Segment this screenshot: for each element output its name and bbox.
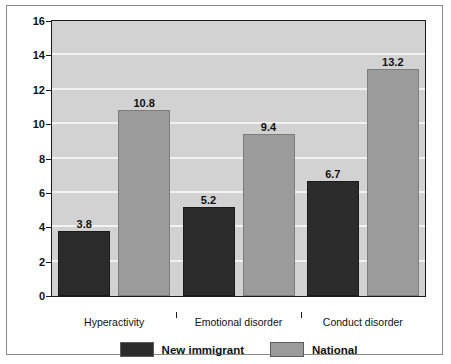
chart-legend: New immigrantNational xyxy=(51,342,426,357)
legend-item: National xyxy=(270,342,357,357)
bar-new-immigrant: 3.8 xyxy=(58,231,110,296)
y-axis-tick-label: 2 xyxy=(19,256,45,268)
gridline xyxy=(52,53,425,55)
y-axis-tick-mark xyxy=(46,90,51,91)
bar-national: 13.2 xyxy=(367,69,419,296)
legend-swatch-new-immigrant xyxy=(120,342,154,357)
bar-national: 10.8 xyxy=(118,110,170,296)
y-axis-tick-mark xyxy=(46,21,51,22)
bar-value-label: 13.2 xyxy=(382,56,403,68)
y-axis-tick-label: 6 xyxy=(19,187,45,199)
legend-swatch-national xyxy=(270,342,304,357)
legend-label: National xyxy=(312,344,357,356)
bar-value-label: 3.8 xyxy=(77,218,92,230)
plot-wrapper: Percent 3.810.85.29.46.713.2 02468101214… xyxy=(51,20,426,297)
bar-national: 9.4 xyxy=(243,134,295,296)
x-axis-category-label: Emotional disorder xyxy=(195,316,283,328)
y-axis-tick-mark xyxy=(46,296,51,297)
bar-value-label: 9.4 xyxy=(261,121,276,133)
y-axis-tick-label: 16 xyxy=(19,15,45,27)
bar-new-immigrant: 6.7 xyxy=(307,181,359,296)
y-axis-tick-mark xyxy=(46,55,51,56)
x-axis-tick-mark xyxy=(176,312,177,318)
x-axis-tick-mark xyxy=(301,312,302,318)
plot-area: 3.810.85.29.46.713.2 xyxy=(51,20,426,297)
y-axis-tick-mark xyxy=(46,227,51,228)
y-axis-tick-label: 8 xyxy=(19,153,45,165)
bar-value-label: 6.7 xyxy=(325,168,340,180)
bar-value-label: 5.2 xyxy=(201,194,216,206)
y-axis-tick-label: 0 xyxy=(19,290,45,302)
y-axis-tick-label: 12 xyxy=(19,84,45,96)
x-axis-category-label: Hyperactivity xyxy=(84,316,144,328)
y-axis-tick-mark xyxy=(46,193,51,194)
y-axis-tick-mark xyxy=(46,159,51,160)
y-axis-tick-label: 4 xyxy=(19,221,45,233)
bar-new-immigrant: 5.2 xyxy=(183,207,235,296)
y-axis-tick-label: 14 xyxy=(19,49,45,61)
x-axis-category-label: Conduct disorder xyxy=(323,316,403,328)
y-axis-tick-label: 10 xyxy=(19,118,45,130)
legend-label: New immigrant xyxy=(162,344,244,356)
chart-figure: Percent 3.810.85.29.46.713.2 02468101214… xyxy=(6,5,443,355)
y-axis-tick-mark xyxy=(46,124,51,125)
legend-item: New immigrant xyxy=(120,342,244,357)
y-axis-tick-mark xyxy=(46,262,51,263)
bar-value-label: 10.8 xyxy=(133,97,154,109)
